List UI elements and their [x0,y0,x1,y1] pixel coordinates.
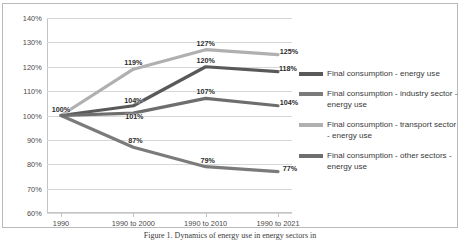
plot-area: 140%130%120%110%100%90%80%70%60% 1990199… [47,18,292,213]
y-axis-tick-label: 130% [23,38,42,47]
data-point-label: 107% [196,87,214,96]
gridline [47,213,292,214]
data-point-label: 119% [124,58,142,67]
legend-color-swatch [299,92,323,96]
x-axis-tick-label: 1990 [53,219,69,228]
chart-legend: Final consumption - energy useFinal cons… [299,68,459,181]
legend-item[interactable]: Final consumption - other sectors - ener… [299,150,459,172]
data-point-label: 79% [200,155,214,164]
data-point-label: 87% [128,136,142,145]
legend-color-swatch [299,72,323,76]
legend-item-label: Final consumption - industry sector - en… [327,88,459,110]
y-axis-tick-label: 140% [23,14,42,23]
data-point-label: 104% [280,97,298,106]
legend-item[interactable]: Final consumption - energy use [299,68,459,79]
y-axis-tick-label: 110% [23,87,42,96]
legend-item-label: Final consumption - energy use [327,68,440,79]
legend-item-label: Final consumption - transport sector - e… [327,119,459,141]
data-point-label: 118% [279,63,297,72]
data-point-label: 104% [124,95,142,104]
y-axis-tick-label: 120% [23,62,42,71]
figure-container: 140%130%120%110%100%90%80%70%60% 1990199… [0,0,460,247]
x-axis-tick-label: 1990 to 2000 [112,219,155,228]
legend-item[interactable]: Final consumption - transport sector - e… [299,119,459,141]
x-axis-tick-mark [206,213,207,217]
x-axis-tick-mark [61,213,62,217]
data-point-label: 101% [125,112,143,121]
chart-frame: 140%130%120%110%100%90%80%70%60% 1990199… [2,3,458,228]
x-axis-tick-label: 1990 to 2010 [184,219,227,228]
y-axis-tick-label: 80% [27,160,42,169]
legend-color-swatch [299,123,323,127]
series-line [61,116,278,172]
data-point-label: 120% [196,55,214,64]
series-lines [47,18,292,213]
data-point-label: 127% [196,38,214,47]
y-axis-tick-label: 60% [27,209,42,218]
data-point-label: 125% [280,46,298,55]
series-line [61,67,278,116]
series-line [61,98,278,115]
y-axis-tick-label: 70% [27,184,42,193]
figure-caption: Figure 1. Dynamics of energy use in ener… [0,231,460,240]
y-axis-tick-label: 100% [23,111,42,120]
x-axis-tick-mark [278,213,279,217]
legend-item-label: Final consumption - other sectors - ener… [327,150,459,172]
legend-item[interactable]: Final consumption - industry sector - en… [299,88,459,110]
legend-color-swatch [299,154,323,158]
x-axis-tick-label: 1990 to 2021 [256,219,299,228]
data-point-label: 77% [283,163,297,172]
x-axis-tick-mark [133,213,134,217]
y-axis-tick-label: 90% [27,135,42,144]
data-point-label: 100% [52,104,70,113]
